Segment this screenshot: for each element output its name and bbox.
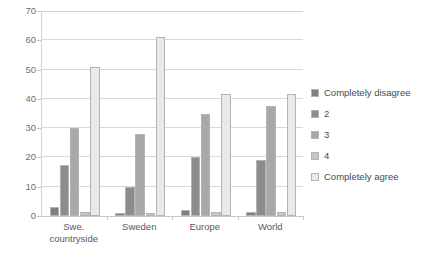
bar [221,94,231,216]
bar [156,37,166,216]
legend-label: Completely disagree [324,87,411,98]
y-axis-tick-mark [37,157,41,158]
bar [256,160,266,216]
y-axis: 010203040506070 [0,0,36,256]
bar [70,128,80,216]
bar [125,187,135,216]
y-axis-tick-label: 0 [4,211,36,221]
bar [135,134,145,216]
y-axis-tick-label: 70 [4,6,36,16]
x-axis-tick-mark [172,216,173,220]
y-axis-tick-label: 50 [4,65,36,75]
y-axis-tick-mark [37,99,41,100]
y-axis-tick-label: 40 [4,94,36,104]
legend-item: Completely disagree [311,82,411,103]
y-axis-tick-label: 20 [4,152,36,162]
legend-item: 4 [311,145,411,166]
bar [191,157,201,216]
legend-swatch [311,110,319,118]
y-axis-tick-label: 30 [4,123,36,133]
y-axis-tick-mark [37,11,41,12]
bar-group [246,11,296,216]
legend-swatch [311,152,319,160]
y-axis-tick-mark [37,40,41,41]
legend-label: 2 [324,108,329,119]
y-axis-tick-mark [37,216,41,217]
bar-group [115,11,165,216]
bar [90,67,100,216]
legend-label: 4 [324,150,329,161]
legend-label: Completely agree [324,171,398,182]
x-axis-tick-mark [238,216,239,220]
legend: Completely disagree234Completely agree [311,82,411,187]
x-axis-tick-label: World [230,221,312,233]
bar [60,165,70,216]
legend-swatch [311,89,319,97]
y-axis-tick-mark [37,128,41,129]
bar-group [50,11,100,216]
y-axis-tick-label: 60 [4,35,36,45]
y-axis-tick-mark [37,70,41,71]
bar [287,94,297,216]
legend-label: 3 [324,129,329,140]
bar [201,114,211,217]
plot-area [41,11,303,216]
y-axis-tick-label: 10 [4,182,36,192]
bar-chart: 010203040506070 Swe.countrysideSwedenEur… [0,0,430,256]
legend-item: 3 [311,124,411,145]
x-axis-category-label: World [230,221,312,233]
y-axis-tick-mark [37,187,41,188]
bar [50,207,60,216]
legend-item: 2 [311,103,411,124]
legend-swatch [311,131,319,139]
bar-group [181,11,231,216]
bar [266,106,276,216]
legend-item: Completely agree [311,166,411,187]
x-axis-tick-label: countryside [33,233,115,245]
x-axis-tick-mark [107,216,108,220]
x-axis-tick-mark [303,216,304,220]
legend-swatch [311,173,319,181]
